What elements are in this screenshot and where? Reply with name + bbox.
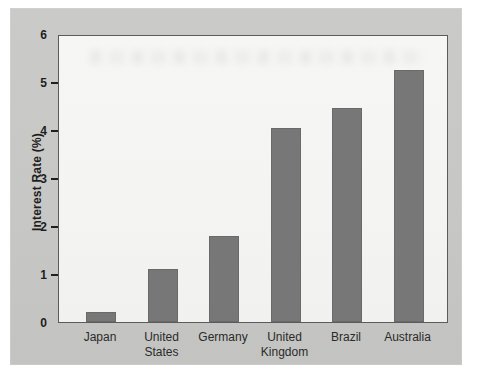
y-tick-mark bbox=[51, 130, 58, 132]
y-tick-mark bbox=[51, 82, 58, 84]
y-tick-label: 5 bbox=[27, 75, 47, 91]
bar-australia bbox=[394, 70, 424, 322]
bar-germany bbox=[209, 236, 239, 322]
print-bleed-artifact bbox=[90, 50, 424, 64]
figure-panel: Interest Rate (%) 0123456 JapanUnited St… bbox=[10, 8, 462, 365]
x-tick-label: Brazil bbox=[313, 330, 379, 345]
y-tick-label: 6 bbox=[27, 27, 47, 43]
plot-area bbox=[58, 35, 448, 323]
bar-united-states bbox=[148, 269, 178, 322]
x-tick-label: United Kingdom bbox=[252, 330, 318, 360]
y-axis-label: Interest Rate (%) bbox=[30, 133, 44, 231]
y-tick-mark bbox=[51, 274, 58, 276]
x-tick-label: Japan bbox=[67, 330, 133, 345]
x-tick-label: Australia bbox=[375, 330, 441, 345]
y-tick-mark bbox=[51, 226, 58, 228]
scanned-page: Interest Rate (%) 0123456 JapanUnited St… bbox=[0, 0, 480, 376]
y-tick-mark bbox=[51, 178, 58, 180]
y-tick-label: 1 bbox=[27, 267, 47, 283]
bar-united-kingdom bbox=[271, 128, 301, 322]
y-tick-label: 0 bbox=[27, 315, 47, 331]
x-tick-label: United States bbox=[129, 330, 195, 360]
x-tick-label: Germany bbox=[190, 330, 256, 345]
bar-brazil bbox=[332, 108, 362, 322]
bar-japan bbox=[86, 312, 116, 322]
